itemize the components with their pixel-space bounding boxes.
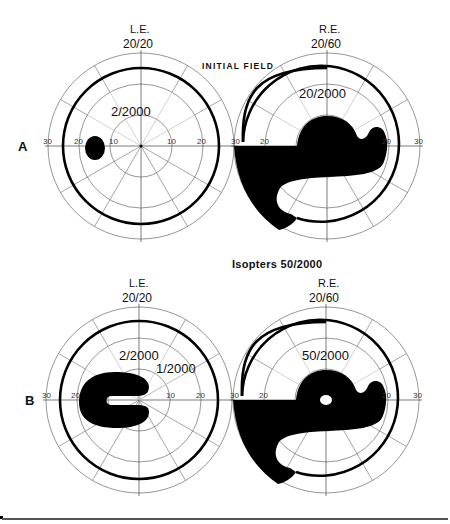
tick-20: 20: [259, 391, 268, 400]
tick-10: 10: [166, 391, 175, 400]
chart-a-right-eye: 20/2000 30 20 20 30: [231, 50, 423, 242]
tick-20: 20: [197, 137, 206, 146]
bottom-rule: [2, 518, 448, 520]
isopter-label-1-2000: 1/2000: [156, 361, 196, 376]
tick-30: 30: [231, 137, 240, 146]
tick-10: 10: [167, 137, 176, 146]
acuity-re: 20/60: [309, 291, 339, 305]
eye-label-re: R.E.: [319, 23, 340, 35]
fixation-point: [139, 144, 142, 147]
chart-b-left-eye: 30 20 10 20 2/2000 1/2000: [42, 304, 235, 496]
eye-label-re: R.E.: [318, 277, 339, 289]
eye-label-le: L.E.: [129, 277, 149, 289]
tick-20: 20: [382, 391, 391, 400]
acuity-le: 20/20: [122, 291, 152, 305]
tick-30: 30: [414, 137, 423, 146]
row-a: A 30 20 10 10 20 2/2000 L.E. 20/20 20/20…: [18, 23, 423, 242]
scotoma-central-inferior: [233, 370, 386, 484]
tick-20: 20: [71, 391, 80, 400]
row-label-a: A: [18, 139, 28, 154]
acuity-le: 20/20: [123, 37, 153, 51]
tick-20: 20: [196, 391, 205, 400]
row-label-b: B: [25, 393, 34, 408]
tick-20: 20: [260, 137, 269, 146]
tick-30: 30: [230, 391, 239, 400]
caption-initial-field: INITIAL FIELD: [202, 61, 274, 71]
tick-20: 20: [382, 137, 391, 146]
scotoma-oval: [85, 136, 105, 160]
tick-30: 30: [413, 391, 422, 400]
isopter-label: 20/2000: [299, 86, 346, 101]
tick-30: 30: [42, 391, 51, 400]
chart-a-left-eye: 30 20 10 10 20 2/2000: [43, 50, 237, 242]
caption-isopters: Isopters 50/2000: [232, 258, 322, 270]
isopter-label: 50/2000: [302, 348, 349, 363]
tick-30: 30: [43, 137, 52, 146]
tick-20: 20: [74, 137, 83, 146]
acuity-re: 20/60: [311, 37, 341, 51]
isopter-label: 2/2000: [111, 104, 151, 119]
row-b: B 30 20 10 20 2/2000 1/2000 L.E. 20/20 5…: [25, 277, 422, 496]
tick-10: 10: [109, 137, 118, 146]
chart-b-right-eye: 50/2000 30 20 20 30: [230, 304, 422, 496]
scotoma-central-inferior: [234, 116, 387, 230]
isopter-label-2-2000: 2/2000: [119, 348, 159, 363]
eye-label-le: L.E.: [130, 23, 150, 35]
visual-field-figure: A 30 20 10 10 20 2/2000 L.E. 20/20 20/20…: [0, 0, 450, 524]
spared-fixation-island: [320, 395, 332, 405]
